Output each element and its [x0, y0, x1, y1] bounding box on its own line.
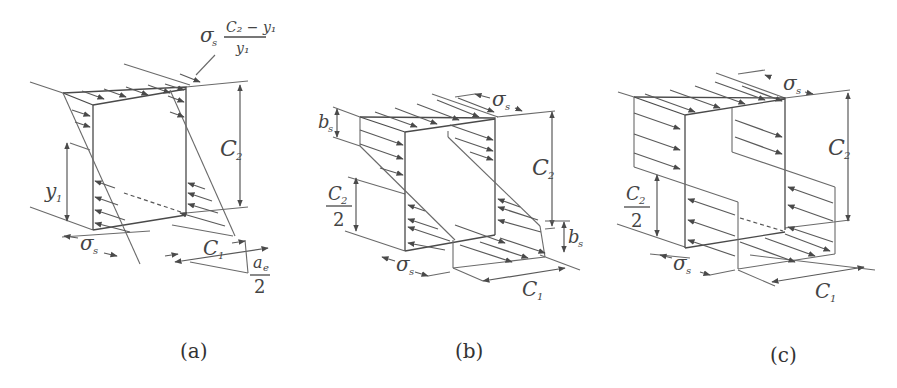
label-c2-sub: 2: [235, 151, 242, 162]
panel-c: σ s C 2 C 2 2 σ s C 1 (c): [617, 70, 875, 367]
label-c1: C: [522, 277, 537, 301]
label-sigma-bottom-sub: s: [686, 265, 691, 276]
label-c1: C: [815, 279, 830, 303]
label-c2-sub: 2: [547, 170, 554, 181]
label-half-c2-sub: 2: [340, 195, 347, 206]
label-half-c2-denominator: 2: [631, 210, 642, 231]
label-sigma-top-sub: s: [505, 101, 510, 112]
label-fraction-denominator: y₁: [235, 40, 250, 56]
label-sigma-bottom-sub: s: [409, 266, 414, 277]
label-c1-sub: 1: [830, 293, 836, 304]
label-c2: C: [828, 135, 845, 160]
label-bs-top-sub: s: [328, 123, 333, 134]
caption-b: (b): [455, 339, 483, 363]
label-c2-sub: 2: [843, 150, 850, 161]
label-sigma-top-sub: s: [212, 37, 217, 48]
stress-diagram-figure: C 2 y 1 σ s C₂ − y₁ y₁ σ s C 1 a e 2 (a): [0, 0, 897, 388]
label-half-c2-numerator: C: [626, 183, 640, 204]
label-c1-sub: 1: [218, 250, 224, 261]
label-ae-denominator: 2: [254, 276, 265, 297]
panel-a: C 2 y 1 σ s C₂ − y₁ y₁ σ s C 1 a e 2 (a): [30, 19, 276, 363]
label-half-c2-denominator: 2: [333, 209, 344, 230]
label-ae-sub: e: [263, 262, 269, 273]
label-c2: C: [532, 155, 549, 180]
label-sigma-top-sub: s: [796, 85, 801, 96]
panel-b: b s σ s C 2 b s C 2 2 σ s C 1 (b): [318, 87, 583, 363]
label-c2: C: [220, 136, 237, 161]
label-bs-bottom-sub: s: [578, 238, 583, 249]
label-ae: a: [253, 253, 263, 272]
label-c1: C: [203, 236, 218, 260]
label-half-c2-numerator: C: [328, 183, 342, 204]
label-c1-sub: 1: [537, 291, 543, 302]
label-fraction-numerator: C₂ − y₁: [226, 19, 276, 35]
caption-a: (a): [180, 339, 208, 363]
caption-c: (c): [770, 343, 797, 367]
label-sigma-bottom-sub: s: [93, 245, 98, 256]
label-y1-sub: 1: [56, 193, 62, 204]
label-half-c2-sub: 2: [638, 195, 645, 206]
